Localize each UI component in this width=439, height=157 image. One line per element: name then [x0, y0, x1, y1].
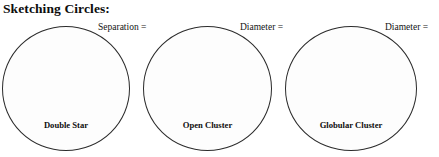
diameter-label-globular-cluster: Diameter = — [385, 22, 428, 33]
sketch-circle-globular-cluster[interactable] — [285, 26, 417, 151]
sketch-group-globular-cluster: Diameter = Globular Cluster — [0, 0, 439, 157]
caption-globular-cluster: Globular Cluster — [285, 120, 417, 130]
sketching-circles-worksheet: Sketching Circles: Separation = Double S… — [0, 0, 439, 157]
